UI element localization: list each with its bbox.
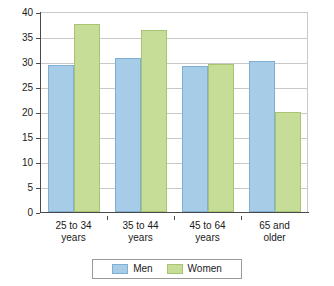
- y-axis-tick: [36, 213, 40, 214]
- x-axis-label-2: 35 to 44years: [107, 220, 174, 244]
- bar-women-3[interactable]: [208, 64, 234, 212]
- bar-women-2[interactable]: [141, 30, 167, 212]
- x-axis-labels: 25 to 34years35 to 44years45 to 64years6…: [40, 216, 308, 252]
- bar-men-2[interactable]: [115, 58, 141, 212]
- bar-women-4[interactable]: [275, 112, 301, 212]
- x-axis-label-4: 65 andolder: [241, 220, 308, 244]
- bar-men-1[interactable]: [48, 65, 74, 213]
- y-axis-tick-label: 25: [22, 83, 33, 93]
- y-axis-tick-label: 5: [27, 183, 33, 193]
- x-axis-label-line: years: [40, 232, 107, 244]
- bar-group: [107, 13, 174, 212]
- y-axis-tick-label: 35: [22, 33, 33, 43]
- bar-women-1[interactable]: [74, 24, 100, 212]
- y-axis-tick-label: 0: [27, 208, 33, 218]
- bar-men-3[interactable]: [182, 66, 208, 212]
- x-axis-label-line: 25 to 34: [40, 220, 107, 232]
- y-axis-tick-label: 10: [22, 158, 33, 168]
- x-axis-label-line: years: [107, 232, 174, 244]
- y-axis-tick-label: 20: [22, 108, 33, 118]
- x-axis-label-line: older: [241, 232, 308, 244]
- x-axis-label-1: 25 to 34years: [40, 220, 107, 244]
- x-axis-label-line: 65 and: [241, 220, 308, 232]
- women-swatch-icon: [167, 264, 183, 274]
- plot-area: 0510152025303540: [40, 12, 308, 212]
- x-axis-line: [40, 212, 309, 213]
- legend-label-women: Women: [188, 264, 222, 274]
- men-swatch-icon: [112, 264, 128, 274]
- bar-men-4[interactable]: [249, 61, 275, 213]
- x-axis-label-line: 35 to 44: [107, 220, 174, 232]
- bar-group: [174, 13, 241, 212]
- legend-item-women[interactable]: Women: [167, 264, 222, 274]
- chart-legend: Men Women: [92, 259, 242, 279]
- x-axis-label-line: 45 to 64: [174, 220, 241, 232]
- bar-group: [40, 13, 107, 212]
- x-axis-label-line: years: [174, 232, 241, 244]
- legend-item-men[interactable]: Men: [112, 264, 152, 274]
- y-axis-tick-label: 30: [22, 58, 33, 68]
- bar-chart: 0510152025303540 25 to 34years35 to 44ye…: [0, 0, 334, 286]
- x-axis-label-3: 45 to 64years: [174, 220, 241, 244]
- bar-group: [241, 13, 308, 212]
- bars-layer: [40, 13, 307, 212]
- legend-label-men: Men: [133, 264, 152, 274]
- y-axis-line: [40, 12, 41, 213]
- y-axis-tick-label: 40: [22, 8, 33, 18]
- y-axis-tick-label: 15: [22, 133, 33, 143]
